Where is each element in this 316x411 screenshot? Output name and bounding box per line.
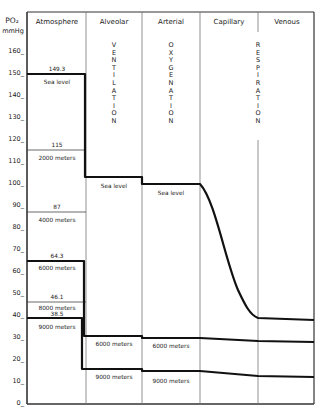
arterial-9000: 9000 meters: [152, 378, 189, 384]
atm-value: 87: [53, 204, 61, 210]
column-header-atmosphere: Atmosphere: [36, 18, 78, 26]
tick-label: 110_: [8, 157, 24, 165]
atm-value: 46.1: [51, 294, 64, 300]
process-oxygenation: OXYGENATION: [168, 41, 174, 125]
tick-label: 80_: [12, 223, 24, 231]
tick-label: 50_: [12, 289, 24, 297]
y-axis-ticks: 160_ 150_ 140_ 130_ 120_ 110_ 100_ 90_ 8…: [8, 47, 24, 407]
y-axis-label-unit: mmHg: [2, 27, 24, 35]
tick-label: 90_: [12, 201, 24, 209]
tick-label: 140_: [8, 91, 24, 99]
process-respiration: RESPIRATION: [255, 41, 261, 125]
column-headers: Atmosphere Alveolar Arterial Capillary V…: [36, 18, 300, 26]
arterial-6000: 6000 meters: [152, 343, 189, 349]
atmosphere-labels: 149.3 Sea level 115 2000 meters 87 4000 …: [38, 66, 75, 330]
column-header-arterial: Arterial: [158, 18, 184, 26]
column-header-capillary: Capillary: [214, 18, 245, 26]
tick-label: 130_: [8, 113, 24, 121]
atm-value: 64.3: [51, 253, 64, 259]
alveolar-6000: 6000 meters: [95, 341, 132, 347]
atm-value: 149.3: [49, 66, 66, 72]
alveolar-9000: 9000 meters: [95, 374, 132, 380]
tick-label: 120_: [8, 135, 24, 143]
process-ventilation: VENTILATION: [111, 41, 117, 125]
atm-altitude: 6000 meters: [38, 265, 75, 271]
y-axis-label-po2: PO₂: [5, 16, 18, 25]
alveolar-sea-level: Sea level: [101, 183, 128, 189]
atm-value: 38.5: [51, 311, 64, 317]
tick-label: 60_: [12, 267, 24, 275]
atm-altitude: 2000 meters: [38, 155, 75, 161]
arterial-sea-level: Sea level: [158, 190, 185, 196]
atm-altitude: 4000 meters: [38, 217, 75, 223]
tick-label: 160_: [8, 47, 24, 55]
atmosphere-reference-lines: [27, 150, 86, 302]
atm-value: 115: [51, 142, 62, 148]
column-header-alveolar: Alveolar: [100, 18, 129, 26]
tick-label: 30_: [12, 333, 24, 341]
tick-label: 150_: [8, 69, 24, 77]
oxygen-cascade-diagram: PO₂ mmHg 160_ 150_ 140_ 130_ 120_ 110_ 1…: [0, 0, 316, 411]
tick-label: 10_: [12, 377, 24, 385]
tick-label: 40_: [12, 311, 24, 319]
tick-label: 100_: [8, 179, 24, 187]
arterial-labels: Sea level 6000 meters 9000 meters: [152, 190, 189, 384]
tick-label: 70_: [12, 245, 24, 253]
atm-altitude: Sea level: [44, 79, 71, 85]
alveolar-labels: Sea level 6000 meters 9000 meters: [95, 183, 132, 380]
tick-label: 20_: [12, 355, 24, 363]
column-header-venous: Venous: [274, 18, 300, 26]
tick-label: 0_: [17, 399, 25, 407]
atm-altitude: 9000 meters: [38, 324, 75, 330]
